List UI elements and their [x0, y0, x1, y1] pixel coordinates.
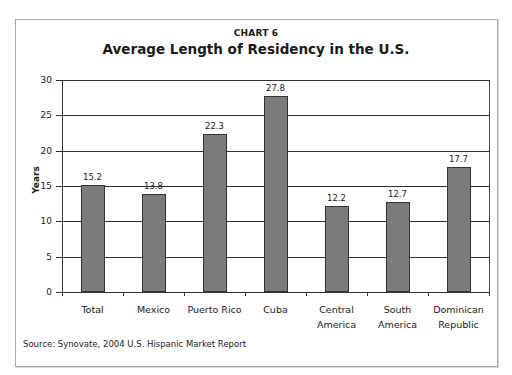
x-category-label: Cuba [241, 302, 311, 317]
bar [142, 194, 166, 292]
x-category-label: DominicanRepublic [424, 302, 494, 332]
x-tick-mark [306, 292, 307, 296]
y-tick-label: 20 [30, 146, 52, 156]
x-category-label-line1: Mexico [119, 302, 189, 317]
bar-value-label: 12.2 [317, 193, 357, 203]
bar-value-label: 27.8 [256, 83, 296, 93]
source-note: Source: Synovate, 2004 U.S. Hispanic Mar… [23, 339, 246, 349]
gridline [62, 80, 489, 81]
chart-number: CHART 6 [0, 28, 512, 38]
y-tick-label: 5 [30, 252, 52, 262]
x-category-label-line1: Cuba [241, 302, 311, 317]
x-tick-mark [428, 292, 429, 296]
x-category-label: SouthAmerica [363, 302, 433, 332]
chart-title: Average Length of Residency in the U.S. [0, 41, 512, 57]
y-tick-mark [56, 115, 62, 116]
y-tick-label: 15 [30, 181, 52, 191]
y-tick-label: 25 [30, 110, 52, 120]
x-category-label-line1: Puerto Rico [180, 302, 250, 317]
bar-value-label: 13.8 [134, 181, 174, 191]
x-category-label-line1: Dominican [424, 302, 494, 317]
x-category-label: CentralAmerica [302, 302, 372, 332]
x-tick-mark [245, 292, 246, 296]
bar-value-label: 15.2 [73, 172, 113, 182]
bar [264, 96, 288, 292]
bar [447, 167, 471, 292]
bar [203, 134, 227, 292]
y-tick-mark [56, 257, 62, 258]
x-category-label-line1: South [363, 302, 433, 317]
bar [81, 185, 105, 292]
y-tick-mark [56, 80, 62, 81]
y-tick-mark [56, 221, 62, 222]
x-category-label-line2: America [363, 317, 433, 332]
bar-value-label: 17.7 [439, 154, 479, 164]
x-category-label-line2: America [302, 317, 372, 332]
x-tick-mark [184, 292, 185, 296]
plot-area: 15.213.822.327.812.212.717.7 [62, 80, 490, 292]
x-category-label: Total [58, 302, 128, 317]
y-tick-label: 0 [30, 287, 52, 297]
x-category-label-line2: Republic [424, 317, 494, 332]
x-tick-mark [489, 292, 490, 296]
x-tick-mark [123, 292, 124, 296]
x-tick-mark [62, 292, 63, 296]
x-tick-mark [367, 292, 368, 296]
y-tick-label: 10 [30, 216, 52, 226]
y-axis-line [62, 80, 63, 292]
bar-value-label: 22.3 [195, 121, 235, 131]
y-axis-title: Years [31, 160, 41, 200]
bar [325, 206, 349, 292]
y-tick-mark [56, 186, 62, 187]
x-axis-line [62, 292, 489, 293]
bar-value-label: 12.7 [378, 189, 418, 199]
x-category-label-line1: Total [58, 302, 128, 317]
x-category-label: Mexico [119, 302, 189, 317]
y-tick-mark [56, 151, 62, 152]
y-tick-label: 30 [30, 75, 52, 85]
bar [386, 202, 410, 292]
x-category-label-line1: Central [302, 302, 372, 317]
x-category-label: Puerto Rico [180, 302, 250, 317]
